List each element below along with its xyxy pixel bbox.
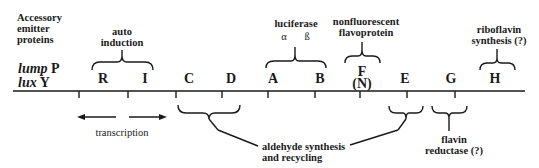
riboflavin-line-1: riboflavin: [471, 24, 526, 35]
flavoprotein-line-1: nonfluorescent: [333, 16, 399, 27]
gene-boundary-ticks: [79, 91, 455, 98]
aldehyde-line-2: and recycling: [262, 152, 345, 163]
strain-lux-suffix: Y: [40, 75, 50, 90]
flavoprotein-label: nonfluorescent flavoprotein: [333, 16, 399, 38]
autoinduction-line-2: induction: [101, 37, 144, 48]
arrow-right-icon: [159, 114, 167, 120]
riboflavin-line-2: synthesis (?): [471, 35, 526, 46]
riboflavin-brace-icon: [480, 58, 515, 70]
accessory-line-3: proteins: [17, 34, 62, 45]
strain-lux-italic: lux: [18, 75, 37, 90]
gene-h: H: [490, 72, 501, 86]
flavin-reductase-label: flavin reductase (?): [425, 134, 483, 156]
gene-i: I: [142, 72, 147, 86]
gene-r: R: [98, 72, 108, 86]
riboflavin-label: riboflavin synthesis (?): [471, 24, 526, 46]
gene-a: A: [268, 72, 278, 86]
luciferase-label: luciferase: [274, 18, 317, 29]
gene-f-alt-n: (N): [352, 77, 371, 91]
aldehyde-line-1: aldehyde synthesis: [262, 141, 345, 152]
luciferase-brace-icon: [266, 55, 326, 68]
strain-lump-italic: lump: [18, 61, 48, 76]
flavin-reductase-line-2: reductase (?): [425, 145, 483, 156]
flavoprotein-line-2: flavoprotein: [333, 27, 399, 38]
gene-b: B: [315, 72, 324, 86]
aldehyde-label: aldehyde synthesis and recycling: [262, 141, 345, 163]
accessory-line-2: emitter: [17, 23, 62, 34]
flavin-reductase-line-1: flavin: [425, 134, 483, 145]
strain-lump-p: lump P: [18, 61, 60, 76]
transcription-label: transcription: [95, 127, 148, 138]
alpha-label: α: [281, 31, 287, 42]
flavin-reductase-brace-icon: [432, 106, 467, 118]
autoinduction-label: auto induction: [101, 26, 144, 48]
strain-lux-y: lux Y: [18, 75, 50, 90]
strain-lump-suffix: P: [51, 61, 60, 76]
gene-e: E: [400, 72, 409, 86]
accessory-line-1: Accessory: [17, 12, 62, 23]
arrow-left-icon: [77, 114, 85, 120]
autoinduction-brace-icon: [92, 56, 153, 70]
gene-c: C: [184, 72, 194, 86]
lux-operon-diagram: Accessory emitter proteins lump P lux Y …: [0, 0, 539, 168]
aldehyde-e-brace-icon: [389, 106, 423, 119]
gene-g: G: [446, 72, 457, 86]
flavoprotein-brace-icon: [345, 50, 380, 63]
autoinduction-line-1: auto: [101, 26, 144, 37]
aldehyde-cd-brace-icon: [178, 105, 240, 119]
gene-d: D: [226, 72, 236, 86]
beta-label: ß: [304, 31, 309, 42]
accessory-label: Accessory emitter proteins: [17, 12, 62, 45]
